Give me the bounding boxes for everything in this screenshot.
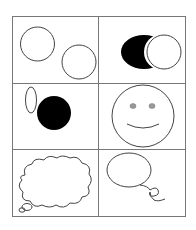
panel-two-circles xyxy=(21,27,97,79)
circle-icon xyxy=(62,45,96,79)
left-eye-icon xyxy=(130,104,136,109)
smile-mouth-icon xyxy=(127,124,159,128)
panel-smiley-face xyxy=(112,85,174,147)
ellipse-icon xyxy=(26,87,37,113)
circle-icon xyxy=(147,35,181,69)
panel-crescent-eclipse xyxy=(121,34,181,70)
speech-bubble-icon xyxy=(107,153,151,187)
panel-thought-bubble xyxy=(19,156,91,212)
right-eye-icon xyxy=(149,104,155,109)
thought-dot-large-icon xyxy=(22,204,32,211)
panel-speech-bubble xyxy=(107,153,165,201)
thought-cloud-icon xyxy=(19,156,91,207)
smiley-face-icon xyxy=(112,85,174,147)
circle-icon xyxy=(21,27,55,61)
speech-tail-icon xyxy=(140,185,165,201)
black-circle-icon xyxy=(37,96,71,130)
figure-canvas xyxy=(0,0,196,230)
panel-ellipse-black-circle xyxy=(26,87,72,130)
